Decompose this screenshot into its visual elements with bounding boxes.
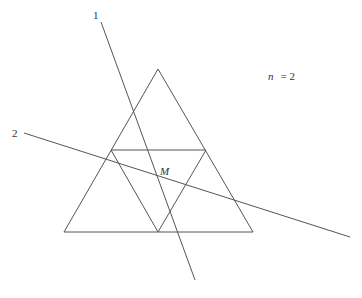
line-1-label: 1 <box>93 9 99 21</box>
line-2-label: 2 <box>12 127 18 139</box>
geometry-diagram: 1 2 M n = 2 <box>0 0 362 298</box>
point-m-label: M <box>159 165 170 177</box>
n-variable: n <box>268 70 274 82</box>
n-value: = 2 <box>281 70 295 82</box>
n-annotation: n = 2 <box>268 66 295 83</box>
inner-triangle <box>111 150 206 232</box>
line-1 <box>101 22 195 280</box>
line-2 <box>24 133 350 237</box>
